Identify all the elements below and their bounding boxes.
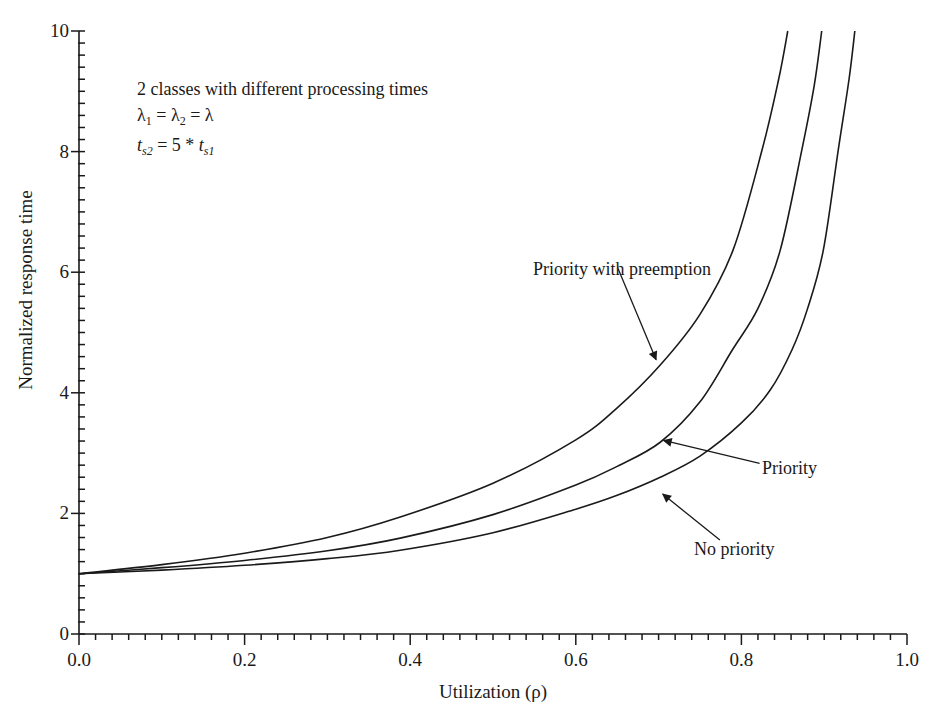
y-tick-label: 2 [60, 502, 70, 523]
label-priority-with-preemption: Priority with preemption [533, 259, 711, 279]
x-tick-label: 0.0 [67, 649, 91, 670]
y-tick-label: 6 [60, 261, 70, 282]
annotation-block: 2 classes with different processing time… [137, 79, 428, 158]
annotation-line-2: λ1 = λ2 = λ [137, 105, 214, 128]
y-tick-label: 0 [60, 623, 70, 644]
x-tick-label: 0.2 [233, 649, 257, 670]
x-axis-title: Utilization (ρ) [439, 681, 547, 703]
y-tick-label: 4 [60, 382, 70, 403]
x-tick-label: 0.8 [730, 649, 754, 670]
annotation-line-1: 2 classes with different processing time… [137, 79, 428, 99]
annotation-line-3: ts2 = 5 * ts1 [137, 135, 215, 158]
y-tick-label: 10 [50, 20, 69, 41]
x-tick-label: 1.0 [895, 649, 919, 670]
y-axis-title: Normalized response time [15, 190, 36, 389]
x-tick-labels: 0.00.20.40.60.81.0 [67, 649, 919, 670]
label-priority: Priority [762, 458, 817, 478]
annotation-arrow [664, 440, 760, 463]
y-tick-labels: 0246810 [50, 20, 70, 644]
curve-arrows [618, 269, 760, 540]
annotation-arrow [663, 494, 720, 540]
y-ticks [71, 31, 85, 634]
x-tick-label: 0.4 [398, 649, 422, 670]
annotation-arrow [618, 269, 656, 360]
chart-canvas: 0246810 0.00.20.40.60.81.0 Utilization (… [0, 0, 936, 719]
y-tick-label: 8 [60, 141, 70, 162]
x-ticks [79, 634, 907, 645]
label-no-priority: No priority [694, 539, 775, 559]
x-tick-label: 0.6 [564, 649, 588, 670]
